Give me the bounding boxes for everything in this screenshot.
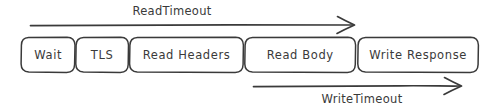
write-timeout-arrow-line bbox=[254, 86, 460, 87]
diagram-canvas: ReadTimeout Wait TLS Read Headers Read B bbox=[0, 0, 492, 109]
timeout-phases-diagram: ReadTimeout Wait TLS Read Headers Read B bbox=[0, 0, 492, 109]
stage-write-response-label: Write Response bbox=[369, 48, 467, 62]
stage-read-body[interactable]: Read Body bbox=[245, 37, 356, 72]
stage-write-response[interactable]: Write Response bbox=[358, 37, 479, 72]
read-timeout-label: ReadTimeout bbox=[132, 4, 211, 18]
stage-read-headers-label: Read Headers bbox=[143, 48, 231, 62]
read-timeout-arrow-line bbox=[31, 25, 353, 26]
stage-read-body-label: Read Body bbox=[267, 48, 334, 62]
stage-wait-label: Wait bbox=[34, 48, 62, 62]
write-timeout-label: WriteTimeout bbox=[322, 92, 403, 106]
stage-tls-label: TLS bbox=[90, 48, 114, 62]
stage-box-group: Wait TLS Read Headers Read Body Write Re… bbox=[21, 37, 478, 72]
stage-wait[interactable]: Wait bbox=[21, 37, 75, 72]
stage-tls[interactable]: TLS bbox=[76, 37, 129, 72]
stage-read-headers[interactable]: Read Headers bbox=[130, 37, 244, 72]
read-timeout-arrow bbox=[31, 17, 355, 34]
